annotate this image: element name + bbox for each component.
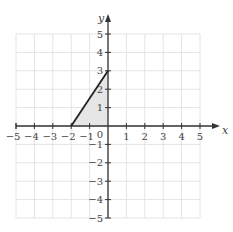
x-tick-label: −2 bbox=[61, 131, 76, 142]
x-tick-label: 5 bbox=[197, 131, 203, 142]
x-tick-label: −4 bbox=[24, 131, 39, 142]
y-tick-label: −4 bbox=[88, 194, 103, 205]
x-tick-label: 3 bbox=[160, 131, 166, 142]
y-tick-label: −1 bbox=[88, 139, 103, 150]
y-tick-label: 4 bbox=[97, 47, 103, 58]
y-tick-label: −2 bbox=[88, 157, 103, 168]
tick-labels: −5−4−3−2−11234554321−1−2−3−4−50xy bbox=[6, 12, 229, 224]
axes bbox=[16, 14, 220, 218]
x-tick-label: 2 bbox=[142, 131, 148, 142]
y-tick-label: 3 bbox=[97, 65, 103, 76]
y-axis-label: y bbox=[97, 12, 105, 25]
x-axis-arrow-icon bbox=[212, 123, 220, 129]
x-tick-label: 1 bbox=[123, 131, 129, 142]
y-tick-label: 5 bbox=[97, 29, 103, 40]
x-axis-label: x bbox=[222, 124, 229, 137]
y-tick-label: −3 bbox=[88, 176, 103, 187]
y-tick-label: 1 bbox=[97, 102, 103, 113]
origin-label: 0 bbox=[97, 129, 103, 140]
x-tick-label: −5 bbox=[6, 131, 21, 142]
y-axis-arrow-icon bbox=[105, 14, 111, 22]
x-tick-label: −3 bbox=[42, 131, 57, 142]
y-tick-label: −5 bbox=[88, 213, 103, 224]
x-tick-label: 4 bbox=[178, 131, 184, 142]
y-tick-label: 2 bbox=[97, 84, 103, 95]
coordinate-plane: −5−4−3−2−11234554321−1−2−3−4−50xy bbox=[0, 0, 233, 232]
